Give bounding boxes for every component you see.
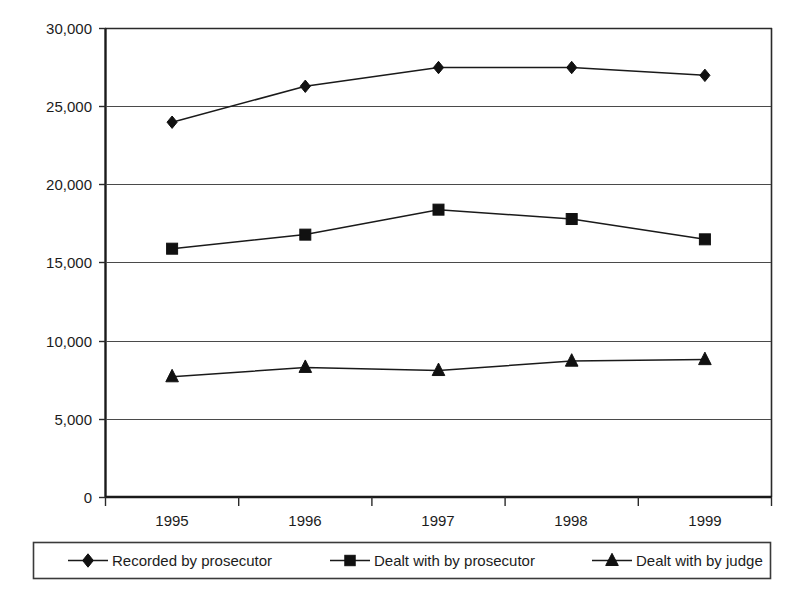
series-line-0 <box>172 68 705 123</box>
data-point-2-4[interactable] <box>699 352 712 364</box>
data-point-1-2[interactable] <box>433 204 444 215</box>
ytick-label-0: 0 <box>84 489 92 506</box>
ytick-label-20000: 20,000 <box>46 176 92 193</box>
data-point-0-2[interactable] <box>433 61 443 73</box>
ytick-label-30000: 30,000 <box>46 20 92 37</box>
data-point-1-1[interactable] <box>300 229 311 240</box>
xtick-label-1996: 1996 <box>288 512 321 529</box>
xtick-label-1998: 1998 <box>554 512 587 529</box>
chart-legend: Recorded by prosecutor Dealt with by pro… <box>34 543 771 579</box>
data-point-0-4[interactable] <box>700 69 710 81</box>
xtick-label-1995: 1995 <box>155 512 188 529</box>
xtick-label-1999: 1999 <box>688 512 721 529</box>
ytick-label-15000: 15,000 <box>46 254 92 271</box>
data-point-0-1[interactable] <box>300 80 310 92</box>
ytick-label-25000: 25,000 <box>46 98 92 115</box>
data-point-1-3[interactable] <box>566 214 577 225</box>
data-point-1-0[interactable] <box>167 243 178 254</box>
chart-canvas: 30,000 25,000 20,000 15,000 10,000 5,000… <box>0 0 803 605</box>
series-0 <box>167 61 710 128</box>
data-point-2-2[interactable] <box>432 363 445 375</box>
data-point-1-4[interactable] <box>699 234 710 245</box>
data-point-2-0[interactable] <box>166 369 179 381</box>
data-point-0-0[interactable] <box>167 116 177 128</box>
data-point-2-3[interactable] <box>565 354 578 366</box>
data-point-2-1[interactable] <box>299 360 312 372</box>
ytick-label-10000: 10,000 <box>46 333 92 350</box>
x-axis-labels: 1995 1996 1997 1998 1999 <box>155 512 721 529</box>
series-layer <box>166 61 711 381</box>
legend-label-series-0: Recorded by prosecutor <box>112 552 272 569</box>
series-2 <box>166 352 711 382</box>
line-chart: 30,000 25,000 20,000 15,000 10,000 5,000… <box>0 0 803 605</box>
y-axis-labels: 30,000 25,000 20,000 15,000 10,000 5,000… <box>46 20 92 506</box>
series-1 <box>167 204 711 254</box>
square-marker-icon <box>345 555 355 565</box>
ytick-label-5000: 5,000 <box>54 411 92 428</box>
x-tick-marks <box>106 497 772 506</box>
legend-label-series-1: Dealt with by prosecutor <box>374 552 535 569</box>
xtick-label-1997: 1997 <box>421 512 454 529</box>
data-point-0-3[interactable] <box>567 61 577 73</box>
legend-label-series-2: Dealt with by judge <box>636 552 763 569</box>
